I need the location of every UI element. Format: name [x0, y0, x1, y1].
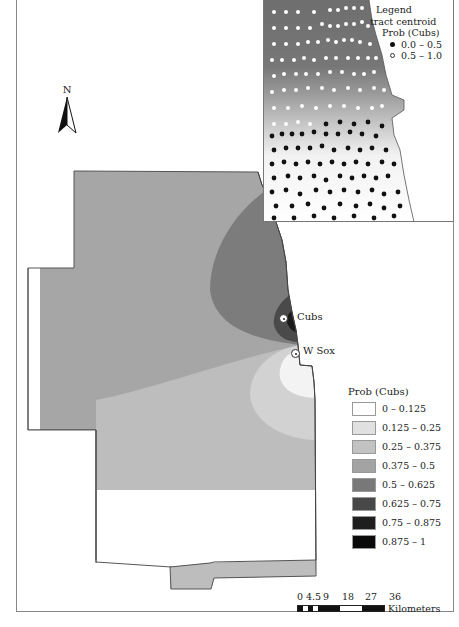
- legend-row: 0 – 0.125: [348, 399, 448, 418]
- legend-label: 0.375 – 0.5: [382, 460, 435, 471]
- probability-legend: Prob (Cubs) 0 – 0.125 0.125 – 0.25 0.25 …: [348, 386, 448, 551]
- legend-row: 0.125 – 0.25: [348, 418, 448, 437]
- scale-tick: 0: [297, 591, 303, 602]
- stadium-marker-cubs[interactable]: [279, 314, 288, 323]
- legend-swatch: [352, 516, 376, 530]
- stadium-label-cubs: Cubs: [297, 311, 323, 322]
- black-dot-icon: [390, 42, 395, 47]
- scale-unit: Kilometers: [388, 603, 440, 614]
- scale-tick: 27: [365, 591, 377, 602]
- inset-legend-row: 0.0 – 0.5: [370, 39, 454, 51]
- scale-tick: 9: [323, 591, 329, 602]
- scale-tick: 36: [389, 591, 401, 602]
- white-dot-icon: [390, 53, 395, 58]
- legend-row: 0.625 – 0.75: [348, 494, 448, 513]
- inset-legend-label: 0.5 – 1.0: [401, 50, 442, 62]
- legend-swatch: [352, 497, 376, 511]
- stadium-marker-wsox[interactable]: [291, 349, 300, 358]
- north-arrow-icon: [52, 95, 82, 135]
- stadium-dot-icon: [283, 318, 285, 320]
- legend-row: 0.25 – 0.375: [348, 437, 448, 456]
- legend-swatch: [352, 440, 376, 454]
- stadium-label-wsox: W Sox: [303, 345, 335, 356]
- legend-swatch: [352, 402, 376, 416]
- legend-row: 0.5 – 0.625: [348, 475, 448, 494]
- legend-label: 0.75 – 0.875: [382, 517, 441, 528]
- legend-label: 0.625 – 0.75: [382, 498, 441, 509]
- scale-bar: 0 4.5 9 18 27 36 Kilometers: [297, 591, 440, 614]
- legend-swatch: [352, 535, 376, 549]
- scale-bar-graphic: [297, 605, 385, 612]
- inset-legend-subtitle: tract centroid: [370, 16, 454, 28]
- inset-legend: Legend tract centroid Prob (Cubs) 0.0 – …: [370, 4, 454, 62]
- legend-title: Prob (Cubs): [348, 386, 448, 397]
- legend-swatch: [352, 421, 376, 435]
- legend-label: 0.5 – 0.625: [382, 479, 435, 490]
- legend-swatch: [352, 459, 376, 473]
- scale-tick: 4.5: [306, 591, 321, 602]
- scale-ticks: 0 4.5 9 18 27 36: [297, 591, 417, 603]
- legend-row: 0.875 – 1: [348, 532, 448, 551]
- legend-label: 0.125 – 0.25: [382, 422, 441, 433]
- north-label: N: [52, 84, 82, 95]
- scale-tick: 18: [342, 591, 354, 602]
- inset-legend-field: Prob (Cubs): [370, 27, 454, 39]
- inset-legend-title: Legend: [370, 4, 454, 16]
- inset-legend-row: 0.5 – 1.0: [370, 50, 454, 62]
- legend-label: 0.875 – 1: [382, 536, 426, 547]
- legend-row: 0.75 – 0.875: [348, 513, 448, 532]
- stadium-dot-icon: [295, 353, 297, 355]
- legend-row: 0.375 – 0.5: [348, 456, 448, 475]
- scale-bar-row: Kilometers: [297, 603, 440, 614]
- legend-label: 0.25 – 0.375: [382, 441, 441, 452]
- legend-swatch: [352, 478, 376, 492]
- inset-legend-label: 0.0 – 0.5: [401, 39, 442, 51]
- north-arrow: N: [52, 84, 82, 136]
- legend-label: 0 – 0.125: [382, 403, 426, 414]
